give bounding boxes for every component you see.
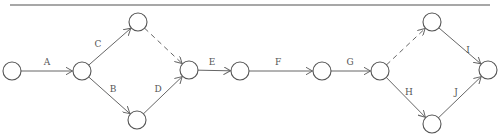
activity-arrow-b	[89, 77, 130, 114]
network-diagram: ACBDEFGHIJ	[0, 0, 500, 137]
event-node-n5	[180, 61, 198, 79]
activity-label-d: D	[154, 84, 161, 94]
activity-arrow-i	[439, 28, 481, 64]
activity-label-c: C	[95, 39, 102, 49]
activity-arrow-e	[198, 70, 231, 71]
event-node-n7	[313, 62, 331, 80]
event-node-n2	[73, 62, 91, 80]
activity-arrow-j	[438, 77, 481, 118]
labels-layer: ACBDEFGHIJ	[43, 39, 470, 97]
event-node-n6	[231, 62, 249, 80]
event-node-n4	[128, 111, 146, 129]
dummy-activity-arrow	[145, 28, 183, 63]
event-node-n9	[423, 13, 441, 31]
activity-label-f: F	[275, 57, 281, 67]
event-node-n8	[371, 62, 389, 80]
event-node-n1	[3, 62, 21, 80]
activity-label-a: A	[43, 57, 51, 67]
activity-label-h: H	[405, 87, 413, 97]
activity-label-j: J	[453, 87, 458, 97]
event-node-n10	[423, 115, 441, 133]
activity-label-i: I	[466, 45, 470, 55]
activity-arrow-d	[143, 77, 182, 114]
activity-label-b: B	[110, 84, 117, 94]
activity-arrow-h	[386, 77, 425, 117]
event-node-n3	[129, 13, 147, 31]
dummy-activity-arrow	[387, 29, 426, 65]
event-node-n11	[479, 61, 497, 79]
activity-label-g: G	[346, 57, 353, 67]
activity-label-e: E	[209, 57, 216, 67]
